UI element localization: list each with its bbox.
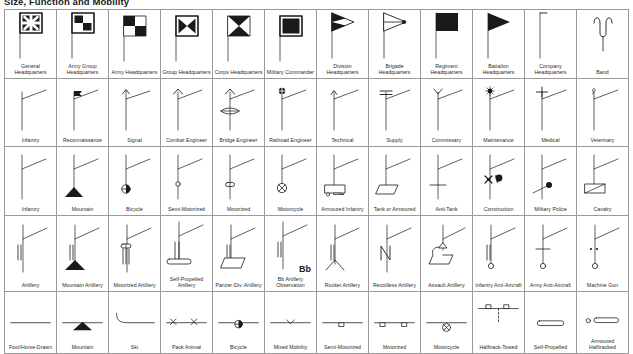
art-assault-icon: [421, 216, 472, 282]
symbol-label: Bridge Engineer: [213, 137, 264, 146]
symbol-cell[interactable]: Motorized: [369, 292, 421, 354]
symbol-cell[interactable]: Bicycle: [109, 147, 161, 216]
symbol-cell[interactable]: Medical: [525, 79, 577, 147]
symbol-cell[interactable]: Recoilless Artillery: [369, 216, 421, 292]
symbol-cell[interactable]: Panzer-Div. Artillery: [213, 216, 265, 292]
symbol-label: Self-Propelled: [525, 344, 576, 353]
symbol-label: Infantry: [5, 137, 56, 146]
symbol-cell[interactable]: Technical: [317, 79, 369, 147]
symbol-cell[interactable]: Tank or Armoured: [369, 147, 421, 216]
symbol-cell[interactable]: Self-Propelled: [525, 292, 577, 354]
symbol-label: Mountain Artillery: [57, 282, 108, 291]
symbol-cell[interactable]: Ski: [109, 292, 161, 354]
symbol-cell[interactable]: DivisionHeadquarters: [317, 10, 369, 79]
symbol-cell[interactable]: Infantry Anti-Aircraft: [473, 216, 525, 292]
symbol-cell-inner: Infantry: [5, 79, 56, 146]
symbol-cell[interactable]: Reconnaissance: [57, 79, 109, 147]
symbol-cell[interactable]: Self-PropelledArtillery: [161, 216, 213, 292]
symbol-cell[interactable]: Construction: [473, 147, 525, 216]
symbol-cell[interactable]: Signal: [109, 79, 161, 147]
symbol-cell[interactable]: Army Headquarters: [109, 10, 161, 79]
inf-circle-small-icon: [161, 147, 212, 206]
symbol-cell[interactable]: Foot/Horse-Drawn: [5, 292, 57, 354]
symbol-cell[interactable]: Maintenance: [473, 79, 525, 147]
symbol-cell[interactable]: Semi-Motorized: [161, 147, 213, 216]
inf-triangle-icon: [57, 147, 108, 206]
inf-crossbar-icon: [421, 147, 472, 206]
symbol-cell[interactable]: Rocket Artillery: [317, 216, 369, 292]
symbol-cell[interactable]: Army GroupHeadquarters: [57, 10, 109, 79]
symbol-cell[interactable]: Artillery: [5, 216, 57, 292]
t-pack-icon: [161, 292, 212, 344]
symbol-cell[interactable]: Commissary: [421, 79, 473, 147]
symbol-label: Infantry: [5, 206, 56, 215]
symbol-cell[interactable]: Pack Animal: [161, 292, 213, 354]
symbol-cell[interactable]: Mountain: [57, 147, 109, 216]
symbol-cell-inner: Signal: [109, 79, 160, 146]
symbol-cell[interactable]: Anti-Tank: [421, 147, 473, 216]
symbol-cell[interactable]: CompanyHeadquarters: [525, 10, 577, 79]
symbol-label: Panzer-Div. Artillery: [213, 282, 264, 291]
symbol-label: Mountain: [57, 344, 108, 353]
symbol-label: Construction: [473, 206, 524, 215]
symbol-cell[interactable]: BrigadeHeadquarters: [369, 10, 421, 79]
symbol-cell[interactable]: Supply: [369, 79, 421, 147]
symbol-label: Motorcycle: [265, 206, 316, 215]
symbol-cell[interactable]: Infantry: [5, 79, 57, 147]
symbol-cell[interactable]: Infantry: [5, 147, 57, 216]
symbol-cell[interactable]: Railroad Engineer: [265, 79, 317, 147]
symbol-label: Motorcycle: [421, 344, 472, 353]
symbol-cell[interactable]: Corps Headquarters: [213, 10, 265, 79]
symbol-cell[interactable]: Mixed Mobility: [265, 292, 317, 354]
lyre-icon: [577, 10, 628, 69]
symbol-cell[interactable]: Bridge Engineer: [213, 79, 265, 147]
t-wheel-icon: [213, 292, 264, 344]
symbol-cell[interactable]: BattalionHeadquarters: [473, 10, 525, 79]
symbol-cell-inner: Motorcycle: [265, 147, 316, 215]
symbol-cell[interactable]: Combat Engineer: [161, 79, 213, 147]
symbol-label: Band: [577, 69, 628, 78]
art-track-icon: [161, 216, 212, 276]
symbol-cell[interactable]: Armoured Halftracked: [577, 292, 629, 354]
symbol-cell[interactable]: Cavalry: [577, 147, 629, 216]
symbol-label: Assault Artillery: [421, 282, 472, 291]
symbol-label: Infantry Anti-Aircraft: [473, 282, 524, 291]
symbol-cell[interactable]: BbBb ArtilleryObservation: [265, 216, 317, 292]
symbol-cell[interactable]: RegimentHeadquarters: [421, 10, 473, 79]
symbol-cell[interactable]: Machine Gun: [577, 216, 629, 292]
symbol-cell[interactable]: Motorcycle: [421, 292, 473, 354]
symbol-cell[interactable]: Motorized: [213, 147, 265, 216]
t-halftrack-towed-icon: [473, 292, 524, 344]
symbol-cell[interactable]: Military Commander: [265, 10, 317, 79]
symbol-cell[interactable]: Armoured Infantry: [317, 147, 369, 216]
flag-small-tick-icon: [525, 10, 576, 63]
inf-plain-icon: [5, 147, 56, 206]
symbol-cell[interactable]: Army Anti-Aircraft: [525, 216, 577, 292]
symbol-cell-inner: Army Anti-Aircraft: [525, 216, 576, 291]
symbol-cell[interactable]: GeneralHeadquarters: [5, 10, 57, 79]
symbol-cell[interactable]: Motorcycle: [265, 147, 317, 216]
aa-cross-ring-icon: [525, 216, 576, 282]
symbol-cell[interactable]: Group Headquarters: [161, 10, 213, 79]
staff-arrow-small-icon: [317, 79, 368, 137]
symbol-cell[interactable]: Semi-Motorized: [317, 292, 369, 354]
symbol-cell[interactable]: Halftrack-Towed: [473, 292, 525, 354]
symbol-cell[interactable]: Assault Artillery: [421, 216, 473, 292]
t-motorcycle-icon: [421, 292, 472, 344]
symbol-label: Anti-Tank: [421, 206, 472, 215]
symbol-cell-inner: Semi-Motorized: [317, 292, 368, 353]
symbol-cell[interactable]: Bicycle: [213, 292, 265, 354]
inf-halftrack-box-icon: [317, 147, 368, 206]
staff-star-dot-icon: [473, 79, 524, 137]
symbol-cell[interactable]: Mountain Artillery: [57, 216, 109, 292]
staff-cross-icon: [525, 79, 576, 137]
symbol-label: Railroad Engineer: [265, 137, 316, 146]
symbol-cell[interactable]: Veterinary: [577, 79, 629, 147]
symbol-cell-inner: Army GroupHeadquarters: [57, 10, 108, 78]
symbol-cell[interactable]: Band: [577, 10, 629, 79]
symbol-cell-inner: Band: [577, 10, 628, 78]
symbol-cell[interactable]: Military Police: [525, 147, 577, 216]
symbol-cell[interactable]: Motorized Artillery: [109, 216, 161, 292]
symbol-cell[interactable]: Mountain: [57, 292, 109, 354]
symbol-label: Army Headquarters: [109, 69, 160, 78]
